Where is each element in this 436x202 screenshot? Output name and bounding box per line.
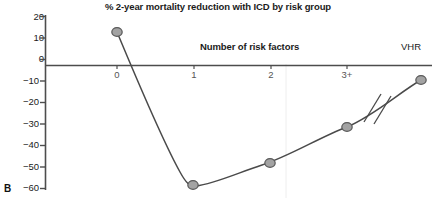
- data-point-2: [265, 159, 275, 168]
- figure-panel-b: % 2-year mortality reduction with ICD by…: [0, 0, 436, 202]
- data-point-0: [112, 28, 122, 37]
- data-point-vhr: [416, 76, 426, 85]
- chart-canvas: [0, 0, 436, 202]
- y-axis-ticks: [40, 17, 46, 189]
- data-point-3plus: [342, 123, 352, 132]
- data-point-1: [188, 181, 198, 190]
